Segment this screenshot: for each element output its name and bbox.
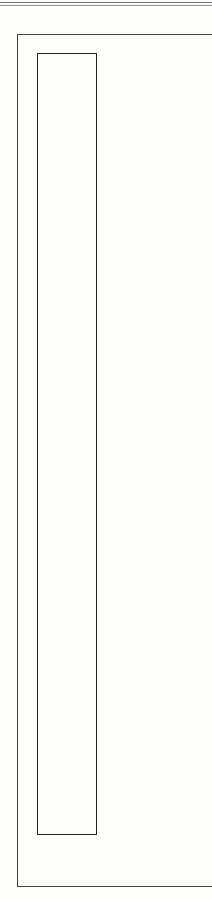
knitting-chart-grid: [37, 53, 97, 835]
top-rule: [0, 2, 212, 3]
top-rule-secondary: [0, 5, 212, 6]
